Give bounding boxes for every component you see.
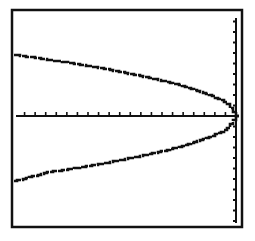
calculator-graph — [0, 0, 255, 241]
curve-branch — [14, 116, 239, 181]
parabola-curve — [14, 55, 239, 181]
graph-frame — [12, 10, 242, 227]
x-axis — [16, 112, 236, 116]
curve-branch — [14, 55, 239, 116]
